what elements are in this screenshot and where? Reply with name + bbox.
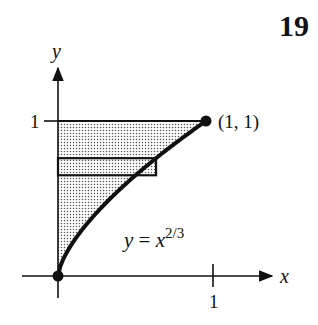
endpoint-dot [201, 116, 212, 127]
y-axis-label: y [50, 40, 61, 63]
y-tick-label: 1 [30, 111, 40, 132]
equation-exponent: 2/3 [165, 225, 184, 241]
x-tick-label: 1 [209, 291, 219, 312]
shaded-region [58, 121, 206, 276]
region-diagram: 19 y x 1 1 (1, 1) y = x2/3 [0, 0, 318, 325]
page-number: 19 [279, 9, 309, 42]
endpoint-label: (1, 1) [218, 111, 259, 133]
curve-equation: y = x2/3 [122, 225, 184, 252]
equation-y: y [122, 228, 134, 252]
equation-equals: = [133, 228, 155, 252]
x-axis-label: x [279, 265, 289, 287]
origin-dot [53, 271, 64, 282]
